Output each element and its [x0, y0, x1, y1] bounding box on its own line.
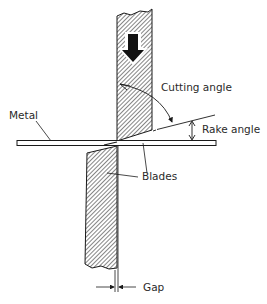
blades-label: Blades [142, 171, 177, 182]
cutting-angle-label: Cutting angle [161, 82, 232, 93]
rake-angle-label: Rake angle [202, 124, 260, 135]
lower-blade [85, 146, 118, 270]
gap-dimension [96, 270, 136, 292]
metal-leader [36, 121, 51, 141]
rake-angle-dimension [189, 121, 195, 140]
upper-blade [117, 9, 152, 141]
metal-label: Metal [9, 110, 38, 121]
shearing-diagram: Cutting angle Rake angle Metal Blades Ga… [0, 0, 267, 304]
metal-sheet [17, 141, 216, 146]
diagram-drawing [0, 0, 267, 304]
gap-label: Gap [143, 282, 164, 293]
